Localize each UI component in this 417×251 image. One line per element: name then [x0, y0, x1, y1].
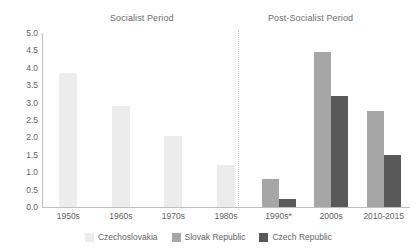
bar — [262, 179, 279, 207]
legend-swatch-icon — [85, 233, 94, 242]
bar — [367, 111, 384, 207]
y-axis-tick-label: 3.0 — [4, 98, 38, 108]
legend-item[interactable]: Czech Republic — [259, 232, 332, 242]
bar-chart: Socialist Period Post-Socialist Period 0… — [0, 0, 417, 251]
y-axis-tick-label: 3.5 — [4, 80, 38, 90]
y-axis-tick-label: 0.5 — [4, 185, 38, 195]
chart-legend: CzechoslovakiaSlovak RepublicCzech Repub… — [0, 232, 417, 242]
legend-item-label: Czechoslovakia — [98, 232, 158, 242]
legend-item-label: Czech Republic — [272, 232, 332, 242]
socialist-period-title: Socialist Period — [110, 13, 174, 23]
y-axis-tick-label: 0.0 — [4, 202, 38, 212]
bar — [112, 106, 130, 207]
bar — [59, 73, 77, 207]
x-axis-tick-label: 1980s — [214, 211, 237, 221]
bar — [314, 52, 331, 207]
y-axis-labels: 0.00.51.01.52.02.53.03.54.04.55.0 — [0, 33, 38, 208]
x-axis-tick-label: 2010-2015 — [363, 211, 404, 221]
x-axis-tick-label: 1970s — [162, 211, 185, 221]
bar — [217, 165, 235, 207]
y-axis-tick-label: 1.0 — [4, 167, 38, 177]
x-axis-line — [42, 207, 410, 208]
x-axis-tick-label: 1990s* — [265, 211, 291, 221]
legend-swatch-icon — [259, 233, 268, 242]
y-axis-tick-label: 2.5 — [4, 115, 38, 125]
legend-item-label: Slovak Republic — [185, 232, 246, 242]
bar — [331, 96, 348, 207]
bar — [384, 155, 401, 207]
legend-item[interactable]: Slovak Republic — [172, 232, 246, 242]
x-axis-tick-label: 2000s — [320, 211, 343, 221]
plot-area — [42, 33, 410, 207]
y-axis-tick-label: 5.0 — [4, 28, 38, 38]
x-axis-tick-label: 1960s — [109, 211, 132, 221]
y-axis-tick-label: 4.5 — [4, 45, 38, 55]
x-axis-tick-label: 1950s — [57, 211, 80, 221]
y-axis-tick-label: 1.5 — [4, 150, 38, 160]
legend-item[interactable]: Czechoslovakia — [85, 232, 158, 242]
y-axis-tick-label: 2.0 — [4, 132, 38, 142]
y-axis-tick-label: 4.0 — [4, 63, 38, 73]
legend-swatch-icon — [172, 233, 181, 242]
bar — [164, 136, 182, 207]
bar — [279, 199, 296, 207]
post-socialist-period-title: Post-Socialist Period — [268, 13, 353, 23]
